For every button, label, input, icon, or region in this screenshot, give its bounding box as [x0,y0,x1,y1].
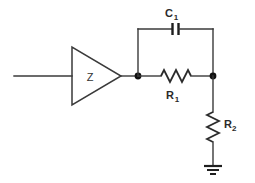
capacitor-label-subscript: 1 [174,13,179,22]
amplifier-triangle [72,47,121,105]
resistor1-label-subscript: 1 [175,95,180,104]
amplifier-label: Z [87,71,94,83]
circuit-schematic: Z C 1 R 1 R 2 [0,0,255,183]
ground-symbol [204,166,222,174]
resistor1-label: R [166,89,174,101]
resistor1-zigzag [161,70,191,82]
resistor2-label: R [224,118,232,130]
resistor2-label-subscript: 2 [232,124,237,133]
circuit-diagram-canvas: Z C 1 R 1 R 2 [0,0,255,183]
capacitor-label: C [165,7,173,19]
resistor2-zigzag [207,112,219,142]
